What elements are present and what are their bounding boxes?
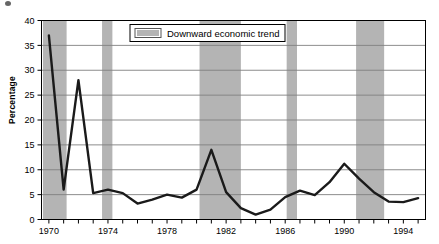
chart-figure: Percentage 1970197419781982198619901994 …	[0, 0, 439, 244]
legend-label: Downward economic trend	[167, 28, 279, 39]
y-tick-label: 15	[24, 140, 34, 150]
y-tick-label: 35	[24, 41, 34, 51]
y-axis-ticks-group: 0510152025303540	[24, 16, 41, 225]
x-axis-ticks-group: 1970197419781982198619901994	[39, 220, 418, 237]
x-tick-label: 1994	[393, 226, 413, 236]
y-tick-label: 25	[24, 90, 34, 100]
legend-swatch-band	[137, 30, 159, 36]
y-tick-label: 10	[24, 165, 34, 175]
chart-legend: Downward economic trend	[130, 25, 285, 42]
y-tick-label: 5	[29, 190, 34, 200]
y-tick-label: 20	[24, 115, 34, 125]
x-tick-label: 1970	[39, 226, 59, 236]
x-tick-label: 1978	[157, 226, 177, 236]
y-tick-label: 40	[24, 16, 34, 26]
x-tick-label: 1986	[275, 226, 295, 236]
x-tick-label: 1974	[98, 226, 118, 236]
x-tick-label: 1990	[334, 226, 354, 236]
line-chart-plot: 1970197419781982198619901994 05101520253…	[0, 0, 439, 244]
y-tick-label: 0	[29, 215, 34, 225]
x-tick-label: 1982	[216, 226, 236, 236]
y-tick-label: 30	[24, 65, 34, 75]
